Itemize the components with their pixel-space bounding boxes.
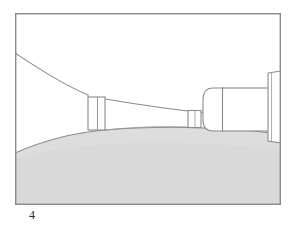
- small-collar-body: [188, 111, 201, 128]
- right-flange: [268, 71, 281, 143]
- right-flange-body: [268, 71, 281, 143]
- figure-caption-label: 4: [29, 208, 35, 222]
- figure-container: 4: [0, 0, 291, 233]
- small-collar: [188, 111, 201, 128]
- left-collar-body: [88, 97, 105, 130]
- left-collar: [88, 97, 105, 130]
- technical-drawing: [0, 0, 291, 233]
- rounded-shoulder: [203, 88, 223, 131]
- main-block-body: [223, 88, 269, 131]
